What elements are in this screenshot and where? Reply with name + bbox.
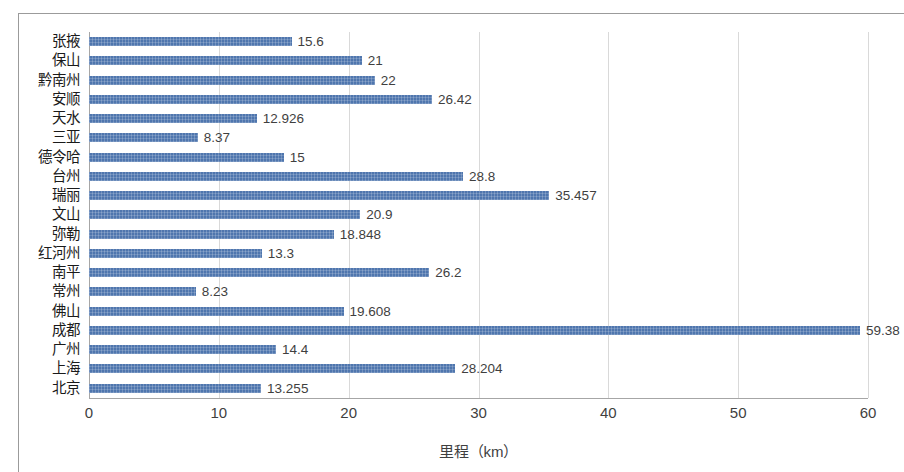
y-axis-category-label: 瑞丽 <box>2 186 80 205</box>
y-axis-category-label: 安顺 <box>2 90 80 109</box>
y-axis-category-label: 文山 <box>2 205 80 224</box>
bar-value-label: 20.9 <box>366 205 392 224</box>
bar[interactable] <box>89 230 334 239</box>
bar[interactable] <box>89 326 860 335</box>
y-axis-category-label: 台州 <box>2 167 80 186</box>
bar-row: 19.608 <box>89 302 868 321</box>
bar-row: 13.255 <box>89 379 868 398</box>
bar-row: 21 <box>89 51 868 70</box>
bar[interactable] <box>89 364 455 373</box>
bar[interactable] <box>89 114 257 123</box>
bar-value-label: 13.255 <box>267 379 308 398</box>
bar-value-label: 28.204 <box>461 359 502 378</box>
x-axis-tick-label: 0 <box>85 404 93 421</box>
y-axis-category-label: 弥勒 <box>2 225 80 244</box>
y-axis-category-labels: 张掖保山黔南州安顺天水三亚德令哈台州瑞丽文山弥勒红河州南平常州佛山成都广州上海北… <box>0 32 80 398</box>
y-axis-category-label: 北京 <box>2 379 80 398</box>
y-axis-category-label: 红河州 <box>2 244 80 263</box>
bar-row: 8.23 <box>89 282 868 301</box>
bar-row: 18.848 <box>89 225 868 244</box>
bar-row: 22 <box>89 71 868 90</box>
bar-row: 20.9 <box>89 205 868 224</box>
bar-value-label: 26.42 <box>438 90 472 109</box>
bar-value-label: 12.926 <box>263 109 304 128</box>
bar-value-label: 35.457 <box>555 186 596 205</box>
bar-value-label: 15 <box>290 148 305 167</box>
bar-row: 14.4 <box>89 340 868 359</box>
bar-value-label: 28.8 <box>469 167 495 186</box>
bar[interactable] <box>89 37 292 46</box>
y-axis-category-label: 广州 <box>2 340 80 359</box>
x-axis-tick-label: 50 <box>730 404 747 421</box>
bar-value-label: 21 <box>368 51 383 70</box>
figure-border-top <box>18 13 904 14</box>
x-axis-tick-label: 60 <box>860 404 877 421</box>
bar[interactable] <box>89 172 463 181</box>
bar-row: 13.3 <box>89 244 868 263</box>
bar-row: 28.204 <box>89 359 868 378</box>
bar[interactable] <box>89 307 344 316</box>
bar-row: 28.8 <box>89 167 868 186</box>
bar-value-label: 19.608 <box>350 302 391 321</box>
bar-value-label: 8.37 <box>204 128 230 147</box>
gridline <box>868 32 869 398</box>
bar[interactable] <box>89 345 276 354</box>
bar-row: 26.42 <box>89 90 868 109</box>
x-axis-tick-label: 20 <box>340 404 357 421</box>
x-axis-line <box>89 398 868 399</box>
bar-row: 15 <box>89 148 868 167</box>
bar-value-label: 26.2 <box>435 263 461 282</box>
bar[interactable] <box>89 153 284 162</box>
y-axis-category-label: 德令哈 <box>2 148 80 167</box>
bar-row: 12.926 <box>89 109 868 128</box>
bar[interactable] <box>89 191 549 200</box>
bar[interactable] <box>89 287 196 296</box>
bar[interactable] <box>89 56 362 65</box>
y-axis-category-label: 天水 <box>2 109 80 128</box>
bar[interactable] <box>89 268 429 277</box>
bar-row: 59.38 <box>89 321 868 340</box>
bar[interactable] <box>89 133 198 142</box>
bar[interactable] <box>89 76 375 85</box>
bar-value-label: 18.848 <box>340 225 381 244</box>
bar-value-label: 22 <box>381 71 396 90</box>
bar-value-label: 8.23 <box>202 282 228 301</box>
bar[interactable] <box>89 384 261 393</box>
x-axis-tick-label: 30 <box>470 404 487 421</box>
bar-chart-figure: 张掖保山黔南州安顺天水三亚德令哈台州瑞丽文山弥勒红河州南平常州佛山成都广州上海北… <box>0 0 904 472</box>
bar-value-label: 59.38 <box>866 321 900 340</box>
x-axis-tick-label: 40 <box>600 404 617 421</box>
y-axis-category-label: 成都 <box>2 321 80 340</box>
bar-value-label: 13.3 <box>268 244 294 263</box>
y-axis-category-label: 黔南州 <box>2 71 80 90</box>
y-axis-category-label: 南平 <box>2 263 80 282</box>
y-axis-category-label: 上海 <box>2 359 80 378</box>
bar-row: 8.37 <box>89 128 868 147</box>
bar-row: 15.6 <box>89 32 868 51</box>
x-axis-tick-label: 10 <box>210 404 227 421</box>
bar[interactable] <box>89 249 262 258</box>
plot-area: 15.6212226.4212.9268.371528.835.45720.91… <box>89 32 868 398</box>
x-axis-title: 里程（km） <box>89 440 868 461</box>
bar-value-label: 14.4 <box>282 340 308 359</box>
y-axis-category-label: 佛山 <box>2 302 80 321</box>
bar-row: 35.457 <box>89 186 868 205</box>
bar-value-label: 15.6 <box>298 32 324 51</box>
y-axis-category-label: 三亚 <box>2 128 80 147</box>
bar[interactable] <box>89 95 432 104</box>
y-axis-category-label: 保山 <box>2 51 80 70</box>
y-axis-category-label: 常州 <box>2 282 80 301</box>
bar-row: 26.2 <box>89 263 868 282</box>
y-axis-category-label: 张掖 <box>2 32 80 51</box>
bar[interactable] <box>89 210 360 219</box>
